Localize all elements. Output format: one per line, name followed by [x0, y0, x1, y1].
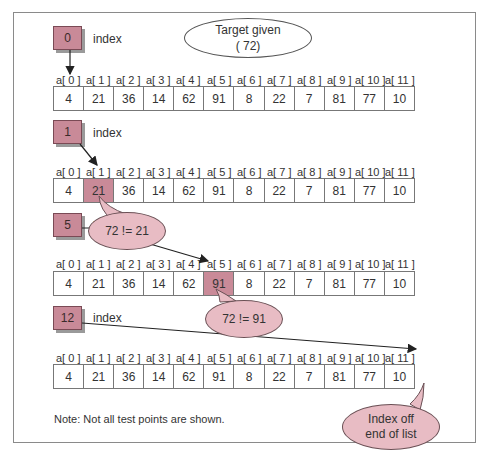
index-value: 1	[64, 125, 71, 139]
array-row-step-2: 4 21 36 14 62 91 8 22 7 81 77 10	[53, 271, 415, 296]
array-label: a[ 8 ]	[297, 74, 321, 86]
note-text: Note: Not all test points are shown.	[54, 413, 225, 425]
array-cell: 81	[325, 87, 355, 110]
array-label: a[ 9 ]	[327, 74, 351, 86]
array-label: a[ 4 ]	[176, 166, 200, 178]
array-label: a[ 5 ]	[207, 166, 231, 178]
array-cell: 22	[265, 272, 295, 295]
target-value: ( 72)	[236, 38, 261, 54]
array-labels-step-2: a[ 0 ] a[ 1 ] a[ 2 ] a[ 3 ] a[ 4 ] a[ 5 …	[56, 258, 418, 272]
array-cell: 14	[144, 272, 174, 295]
array-label: a[ 1 ]	[86, 352, 110, 364]
array-label: a[ 3 ]	[146, 258, 170, 270]
array-cell-highlighted: 21	[84, 179, 114, 202]
array-cell: 14	[144, 87, 174, 110]
index-label: index	[93, 32, 122, 46]
array-cell: 14	[144, 179, 174, 202]
array-label: a[ 2 ]	[116, 74, 140, 86]
array-cell: 77	[355, 87, 385, 110]
comparison-bubble-step-2: 72 != 91	[205, 300, 283, 338]
array-cell: 7	[295, 179, 325, 202]
array-label: a[ 2 ]	[116, 352, 140, 364]
array-cell: 21	[84, 272, 114, 295]
array-label: a[ 6 ]	[237, 74, 261, 86]
array-cell: 10	[385, 272, 414, 295]
array-label: a[ 10 ]	[355, 352, 386, 364]
array-label: a[ 8 ]	[297, 352, 321, 364]
array-cell-highlighted: 91	[204, 272, 234, 295]
array-label: a[ 4 ]	[176, 352, 200, 364]
array-label: a[ 9 ]	[327, 258, 351, 270]
array-label: a[ 6 ]	[237, 352, 261, 364]
array-cell: 8	[234, 365, 264, 388]
array-label: a[ 4 ]	[176, 258, 200, 270]
array-cell: 22	[265, 87, 295, 110]
array-cell: 77	[355, 272, 385, 295]
array-cell: 8	[234, 272, 264, 295]
array-cell: 7	[295, 365, 325, 388]
array-cell: 81	[325, 365, 355, 388]
array-cell: 14	[144, 365, 174, 388]
array-cell: 62	[174, 179, 204, 202]
array-label: a[ 0 ]	[56, 166, 80, 178]
array-cell: 36	[114, 179, 144, 202]
index-box-step-0: 0	[53, 26, 82, 50]
array-cell: 36	[114, 365, 144, 388]
array-cell: 77	[355, 365, 385, 388]
array-cell: 62	[174, 365, 204, 388]
array-cell: 4	[54, 365, 84, 388]
array-cell: 91	[204, 87, 234, 110]
array-label: a[ 3 ]	[146, 74, 170, 86]
array-label: a[ 7 ]	[267, 258, 291, 270]
index-box-step-3: 12	[53, 306, 82, 330]
array-label: a[ 0 ]	[56, 74, 80, 86]
array-label: a[ 7 ]	[267, 166, 291, 178]
array-label: a[ 1 ]	[86, 166, 110, 178]
array-cell: 7	[295, 272, 325, 295]
array-cell: 10	[385, 87, 414, 110]
array-label: a[ 4 ]	[176, 74, 200, 86]
array-cell: 62	[174, 87, 204, 110]
index-box-step-2: 5	[53, 213, 82, 237]
array-cell: 4	[54, 87, 84, 110]
array-label: a[ 3 ]	[146, 166, 170, 178]
array-cell: 22	[265, 179, 295, 202]
array-row-step-3: 4 21 36 14 62 91 8 22 7 81 77 10	[53, 364, 415, 389]
comparison-bubble-step-1: 72 != 21	[88, 212, 166, 250]
index-value: 0	[64, 31, 71, 45]
array-cell: 21	[84, 87, 114, 110]
array-label: a[ 1 ]	[86, 258, 110, 270]
array-label: a[ 0 ]	[56, 258, 80, 270]
array-row-step-0: 4 21 36 14 62 91 8 22 7 81 77 10	[53, 86, 415, 111]
array-cell: 91	[204, 179, 234, 202]
array-cell: 4	[54, 272, 84, 295]
array-cell: 10	[385, 365, 414, 388]
bubble-text: end of list	[365, 427, 416, 442]
array-cell: 4	[54, 179, 84, 202]
array-label: a[ 11 ]	[385, 352, 415, 364]
array-label: a[ 6 ]	[237, 258, 261, 270]
array-row-step-1: 4 21 36 14 62 91 8 22 7 81 77 10	[53, 178, 415, 203]
array-label: a[ 8 ]	[297, 166, 321, 178]
array-label: a[ 5 ]	[207, 352, 231, 364]
array-label: a[ 2 ]	[116, 166, 140, 178]
array-label: a[ 10 ]	[355, 74, 386, 86]
array-cell: 81	[325, 272, 355, 295]
array-cell: 21	[84, 365, 114, 388]
index-value: 12	[61, 311, 74, 325]
array-label: a[ 7 ]	[267, 74, 291, 86]
array-label: a[ 10 ]	[355, 166, 386, 178]
array-label: a[ 5 ]	[207, 74, 231, 86]
array-cell: 36	[114, 272, 144, 295]
array-label: a[ 5 ]	[207, 258, 231, 270]
array-label: a[ 2 ]	[116, 258, 140, 270]
index-label: index	[93, 126, 122, 140]
array-label: a[ 1 ]	[86, 74, 110, 86]
bubble-text: 72 != 91	[222, 312, 266, 327]
array-label: a[ 3 ]	[146, 352, 170, 364]
bubble-text: Index off	[368, 412, 414, 427]
array-label: a[ 0 ]	[56, 352, 80, 364]
array-cell: 36	[114, 87, 144, 110]
array-label: a[ 11 ]	[385, 258, 415, 270]
array-cell: 8	[234, 179, 264, 202]
